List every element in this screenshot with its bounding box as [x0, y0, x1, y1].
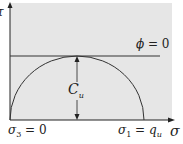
plot-background [10, 3, 172, 120]
sigma1-label: σ1 = qu [118, 124, 162, 139]
radius-label: Cu [68, 82, 84, 100]
x-axis-label: σ [170, 124, 180, 138]
sigma3-label: σ3 = 0 [8, 124, 47, 139]
y-axis-label: τ [0, 6, 4, 18]
envelope-label: ϕ = 0 [136, 38, 170, 50]
